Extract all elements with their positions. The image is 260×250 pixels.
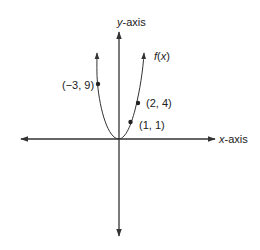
y-axis-label: y-axis [116,16,146,28]
function-curve-left [97,53,119,139]
x-axis-label: x-axis [218,133,248,145]
point-label-neg3-9: (−3, 9) [62,79,94,91]
function-label: f(x) [154,50,170,62]
point-1-1 [128,120,132,124]
function-graph: y-axis x-axis f(x) (−3, 9) (2, 4) (1, 1) [0,0,260,250]
point-label-2-4: (2, 4) [146,97,172,109]
point-label-1-1: (1, 1) [139,119,165,131]
point-2-4 [136,101,140,105]
point-neg3-9 [96,82,100,86]
